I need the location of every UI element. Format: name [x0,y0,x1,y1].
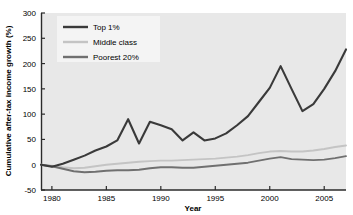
x-axis-title: Year [185,204,202,213]
x-tick-label: 2005 [315,194,333,203]
x-tick-label: 1980 [43,194,61,203]
legend-label: Middle class [93,38,137,47]
y-tick-label: 300 [23,9,37,18]
x-tick-label: 1995 [206,194,224,203]
x-axis-tick-labels: 198019851990199520002005 [43,194,334,203]
income-growth-line-chart: -50050100150200250300 198019851990199520… [0,0,353,215]
y-tick-label: 100 [23,110,37,119]
y-axis-title: Cumulative after-tax income growth (%) [4,25,13,176]
y-tick-label: 0 [32,161,37,170]
x-tick-label: 1985 [97,194,115,203]
x-tick-label: 2000 [261,194,279,203]
x-tick-label: 1990 [152,194,170,203]
y-tick-label: 150 [23,85,37,94]
legend-label: Poorest 20% [93,53,139,62]
y-tick-label: 250 [23,34,37,43]
y-axis-tick-labels: -50050100150200250300 [23,9,37,195]
y-tick-label: 200 [23,60,37,69]
chart-figure: -50050100150200250300 198019851990199520… [0,0,353,215]
y-tick-label: 50 [27,135,36,144]
chart-legend: Top 1%Middle classPoorest 20% [57,16,160,62]
legend-label: Top 1% [93,23,120,32]
y-tick-label: -50 [24,186,36,195]
